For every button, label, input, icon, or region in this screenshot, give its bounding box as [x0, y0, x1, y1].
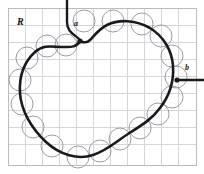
point-label-a: a — [74, 19, 78, 28]
region-label-R: R — [16, 16, 24, 27]
canvas-background — [0, 0, 204, 174]
region-diagram-svg: R a b — [0, 0, 204, 174]
boundary-point-a-marker — [77, 38, 82, 43]
boundary-point-b-marker — [174, 77, 179, 82]
point-label-b: b — [185, 63, 189, 72]
figure-canvas: R a b — [0, 0, 204, 174]
